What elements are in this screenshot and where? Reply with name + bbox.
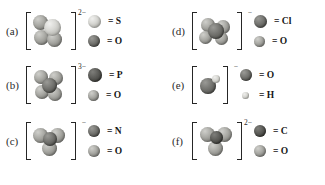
panel-label-f: (f)	[172, 135, 192, 147]
legend-d: = Cl = O	[254, 14, 291, 48]
ion-f: 2−	[192, 122, 242, 160]
atom-hydrogen	[212, 75, 220, 83]
panel-label-d: (d)	[172, 25, 192, 37]
legend-label: = Cl	[274, 16, 291, 26]
legend-a: = S = O	[88, 14, 122, 48]
atom-nitrogen	[43, 132, 57, 146]
legend-label: = O	[272, 36, 287, 46]
legend-b: = P = O	[88, 68, 123, 102]
legend-swatch-oxygen	[88, 145, 100, 157]
legend-swatch-chlorine	[254, 15, 267, 28]
legend-label: = H	[259, 90, 274, 100]
bracket-right-c	[71, 122, 76, 160]
bracket-right-a	[71, 12, 76, 50]
legend-row: = S	[88, 14, 122, 28]
legend-label: = N	[107, 126, 122, 136]
panel-b: (b) 3− = P = O	[6, 66, 123, 104]
charge-label-f: 2−	[244, 118, 252, 127]
legend-row: = H	[240, 88, 274, 102]
molecule-model-c	[31, 122, 71, 160]
legend-swatch-carbon	[254, 125, 266, 137]
molecule-model-f	[197, 122, 237, 160]
bracket-right-d	[237, 12, 242, 50]
panel-d: (d) − = Cl = O	[172, 12, 291, 50]
bracket-right-b	[71, 66, 76, 104]
molecule-model-a	[31, 12, 71, 50]
legend-swatch-hydrogen	[242, 92, 249, 99]
panel-label-a: (a)	[6, 25, 26, 37]
legend-label: = O	[259, 70, 274, 80]
atom-sulfur	[44, 19, 61, 36]
legend-row: = O	[254, 144, 288, 158]
charge-label-a: 2−	[78, 8, 86, 17]
legend-swatch-oxygen	[254, 36, 265, 47]
legend-row: = N	[88, 124, 122, 138]
legend-f: = C = O	[254, 124, 288, 158]
legend-row: = O	[254, 34, 291, 48]
ion-b: 3−	[26, 66, 76, 104]
ion-e: −	[192, 66, 228, 104]
panel-e: (e) − = O = H	[172, 66, 274, 104]
legend-row: = O	[240, 68, 274, 82]
charge-label-b: 3−	[78, 62, 86, 71]
panel-label-c: (c)	[6, 135, 26, 147]
legend-swatch-sulfur	[88, 15, 101, 28]
legend-swatch-phosphorus	[88, 68, 102, 82]
ion-c: −	[26, 122, 76, 160]
ion-d: −	[192, 12, 242, 50]
legend-swatch-oxygen	[240, 69, 252, 81]
panel-label-b: (b)	[6, 79, 26, 91]
legend-swatch-nitrogen	[88, 125, 100, 137]
legend-label: = O	[273, 146, 288, 156]
panel-c: (c) − = N = O	[6, 122, 122, 160]
atom-chlorine	[208, 23, 224, 39]
charge-label-c: −	[82, 118, 86, 127]
legend-c: = N = O	[88, 124, 122, 158]
legend-label: = C	[273, 126, 288, 136]
legend-label: = O	[107, 146, 122, 156]
legend-e: = O = H	[240, 68, 274, 102]
bracket-right-f	[237, 122, 242, 160]
polyatomic-ion-figure: (a) 2− = S = O (b)	[0, 0, 325, 185]
atom-phosphorus	[42, 78, 57, 93]
legend-swatch-oxygen	[88, 90, 99, 101]
legend-swatch-oxygen	[88, 35, 100, 47]
panel-label-e: (e)	[172, 79, 192, 91]
legend-label: = S	[108, 16, 121, 26]
panel-a: (a) 2− = S = O	[6, 12, 122, 50]
molecule-model-d	[197, 12, 237, 50]
legend-label: = P	[109, 70, 123, 80]
legend-row: = O	[88, 88, 123, 102]
bracket-right-e	[223, 66, 228, 104]
molecule-model-e	[197, 66, 223, 104]
atom-carbon	[210, 131, 223, 144]
charge-label-d: −	[248, 8, 252, 17]
legend-row: = Cl	[254, 14, 291, 28]
legend-swatch-oxygen	[254, 145, 266, 157]
legend-row: = O	[88, 34, 122, 48]
legend-label: = O	[106, 90, 121, 100]
legend-row: = C	[254, 124, 288, 138]
legend-row: = O	[88, 144, 122, 158]
legend-row: = P	[88, 68, 123, 82]
molecule-model-b	[31, 66, 71, 104]
ion-a: 2−	[26, 12, 76, 50]
panel-f: (f) 2− = C = O	[172, 122, 288, 160]
charge-label-e: −	[234, 62, 238, 71]
legend-label: = O	[107, 36, 122, 46]
